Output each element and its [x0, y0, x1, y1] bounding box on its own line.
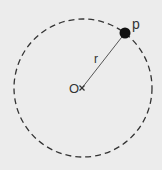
point-p-dot [120, 28, 131, 39]
diagram-canvas: O r p [0, 0, 162, 170]
point-label: p [132, 16, 140, 32]
radius-label: r [94, 52, 98, 66]
center-cross-icon [80, 86, 85, 91]
circle-diagram: O r p [0, 0, 162, 170]
center-label: O [69, 81, 79, 96]
radius-line [82, 33, 125, 88]
dashed-circle [14, 19, 152, 157]
